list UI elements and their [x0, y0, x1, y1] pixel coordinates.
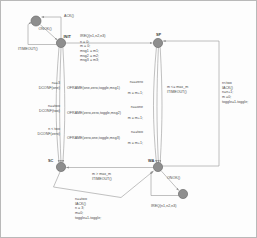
- edge-label-onok-top: ONOK(): [39, 27, 52, 32]
- edge-label-far-right-block: n<two IACK() n=n+1; m =0; toggle=1-toggl…: [222, 81, 248, 105]
- edge-sp-to-wa-3: [160, 48, 162, 163]
- edge-label-onok-bottom: ONOK(): [167, 176, 180, 181]
- edge-label-mid-guard-1: n==zero: [63, 80, 143, 85]
- edge-label-right-guard: m <= max_m: [167, 85, 188, 90]
- edge-wa-to-sp: [163, 41, 220, 166]
- edge-sp-to-wa-2: [157, 48, 158, 163]
- edge-label-bottom-action: ITIMEOUT(): [92, 177, 112, 182]
- edge-label-init-actions: n = 0; m = 0; msg1 = m1; msg2 = m2; msg3…: [80, 40, 99, 64]
- state-label-wa: WA: [148, 158, 154, 163]
- state-node-end[interactable]: [178, 189, 187, 198]
- state-node-sp[interactable]: [153, 38, 162, 47]
- edge-label-mid-update-1: m = m+1;: [63, 91, 143, 96]
- state-label-sc: SC: [48, 158, 53, 163]
- state-node-wa[interactable]: [153, 162, 162, 171]
- edge-label-bottom-block: n==two IACK() n = 3; m=0; toggle=1-toggl…: [75, 197, 101, 221]
- edge-label-left-action-3: DCONF(zero): [10, 132, 60, 137]
- state-node-sc[interactable]: [56, 162, 65, 171]
- state-node-start[interactable]: [31, 16, 41, 26]
- state-node-init[interactable]: [56, 38, 65, 47]
- edge-label-mid-guard-3: n==two: [63, 130, 143, 135]
- edge-label-right-action: ITIMEOUT(): [167, 90, 187, 95]
- edge-wa-to-end: [162, 171, 179, 190]
- state-label-sp: SP: [156, 32, 161, 37]
- edge-label-left-action-1: DCONF(one): [10, 86, 60, 91]
- edge-label-ireq-bottom: IREQ(n1,n2,n3): [151, 204, 176, 209]
- edge-sp-to-wa-1: [153, 48, 156, 163]
- edge-label-mid-update-3: m = m+1;: [63, 141, 143, 146]
- state-label-init: INIT: [64, 34, 71, 39]
- edge-label-ireq-top: IREQ(n1,n2,n3): [80, 34, 105, 39]
- edge-label-mid-guard-2: n==one: [63, 105, 143, 110]
- edge-label-mid-update-2: m = m+1;: [63, 116, 143, 121]
- diagram-frame: INIT SP SC WA ACK() ONOK() ITIMEOUT() IR…: [0, 0, 257, 238]
- edge-label-itimeout-top: ITIMEOUT(): [18, 47, 38, 52]
- edge-label-ack: ACK(): [64, 14, 74, 19]
- edge-label-left-action-2: DCONF(two): [10, 109, 60, 114]
